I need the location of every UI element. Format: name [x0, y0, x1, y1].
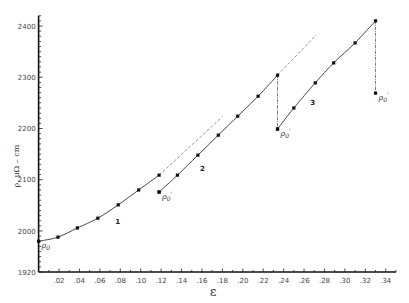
x-tick-label: .18	[217, 277, 228, 285]
x-tick-label: .10	[135, 277, 146, 285]
dashed-extrapolations	[159, 35, 316, 175]
y-tick-label: 2300	[18, 74, 36, 82]
data-point	[292, 106, 295, 109]
subscript: 0	[46, 244, 50, 251]
rho0-annotation: ρ0'	[378, 91, 390, 103]
prime: '	[387, 91, 389, 98]
data-point	[176, 174, 179, 177]
y-tick-label: 1920	[18, 269, 36, 277]
x-tick-label: .14	[176, 277, 188, 285]
x-tick-label: .22	[258, 277, 269, 285]
data-point	[96, 217, 99, 220]
x-tick-label: .34	[380, 277, 392, 285]
y-tick-label: 2000	[18, 228, 36, 236]
x-tick-label: .24	[278, 277, 290, 285]
rho0-prime-point	[276, 127, 279, 130]
y-tick-label: 2200	[18, 125, 36, 133]
rho0-annotation: ρ0'	[280, 127, 292, 139]
series-1-line	[39, 175, 159, 241]
data-point	[314, 81, 317, 84]
rho0-prime-point	[157, 190, 160, 193]
rho0-annotation: ρ0'	[161, 190, 173, 202]
data-point	[332, 61, 335, 64]
y-tick-label: 2400	[18, 23, 36, 31]
x-axis-title: ε	[210, 284, 217, 299]
dashed-extrapolation-line	[278, 35, 317, 75]
curve-label-2: 2	[200, 165, 205, 173]
data-point	[236, 115, 239, 118]
dashed-extrapolation-line	[159, 117, 222, 175]
prime: '	[289, 127, 291, 134]
x-tick-label: .28	[319, 277, 330, 285]
x-tick-label: .12	[156, 277, 167, 285]
data-point	[157, 174, 160, 177]
data-point	[196, 154, 199, 157]
series-3-line	[278, 21, 376, 129]
data-point	[374, 19, 377, 22]
prime: '	[171, 190, 173, 197]
data-point	[117, 203, 120, 206]
y-axis-title: ρ, μΩ – cm	[12, 144, 21, 187]
x-axis-ticks: .02.04.06.08.10.12.14.16.18.20.22.24.26.…	[49, 269, 396, 286]
curve-label-3: 3	[310, 99, 315, 107]
curve-label-1: 1	[115, 218, 120, 226]
x-tick-label: .02	[53, 277, 64, 285]
x-tick-label: .20	[237, 277, 248, 285]
x-tick-label: .32	[360, 277, 371, 285]
data-point	[217, 134, 220, 137]
data-point	[354, 41, 357, 44]
data-point	[276, 74, 279, 77]
data-point	[37, 240, 40, 243]
x-tick-label: .26	[298, 277, 310, 285]
data-point	[257, 95, 260, 98]
annotations: ρ0ρ0'ρ0'ρ0'	[41, 91, 389, 251]
data-point	[137, 188, 140, 191]
data-point	[56, 236, 59, 239]
x-tick-label: .06	[94, 277, 106, 285]
rho0-annotation: ρ0	[41, 241, 51, 251]
rho0-prime-point	[374, 92, 377, 95]
x-tick-label: .30	[339, 277, 350, 285]
x-tick-label: .08	[115, 277, 126, 285]
chart: 192020002100220023002400 .02.04.06.08.10…	[0, 0, 409, 303]
x-tick-label: .04	[74, 277, 86, 285]
data-point	[76, 226, 79, 229]
x-tick-label: .16	[196, 277, 208, 285]
